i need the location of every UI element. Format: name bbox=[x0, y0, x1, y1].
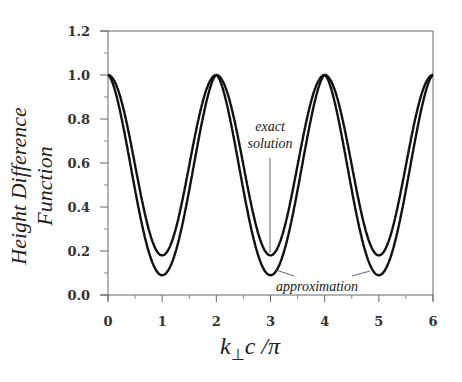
annotation-approx-leader-left bbox=[276, 270, 294, 276]
x-tick-label: 0 bbox=[103, 314, 112, 329]
y-tick-label: 1.2 bbox=[67, 24, 90, 39]
x-label-rest: c /π bbox=[245, 333, 280, 359]
x-label-perp: ⊥ bbox=[231, 346, 245, 363]
y-tick-label: 0.0 bbox=[67, 288, 90, 303]
x-tick-label: 6 bbox=[428, 314, 437, 329]
annotation-approx-leader-right bbox=[352, 271, 370, 276]
y-tick-label: 0.8 bbox=[67, 112, 90, 127]
y-tick-label: 1.0 bbox=[67, 68, 90, 83]
x-tick-label: 3 bbox=[266, 314, 275, 329]
series-approximation-line bbox=[108, 75, 433, 275]
annotation-exact-line2: solution bbox=[240, 135, 300, 152]
x-tick-label: 2 bbox=[212, 314, 221, 329]
x-axis-label: k⊥c /π bbox=[220, 333, 280, 364]
x-tick-label: 1 bbox=[158, 314, 167, 329]
annotation-approximation: approximation bbox=[276, 278, 358, 295]
y-tick-label: 0.4 bbox=[67, 200, 90, 215]
y-axis-label: Height Difference Function bbox=[6, 66, 58, 306]
x-tick-label: 4 bbox=[320, 314, 329, 329]
series-exact-solution-line bbox=[108, 75, 433, 255]
chart-plot: 0.00.20.40.60.81.01.20123456 bbox=[0, 0, 462, 382]
annotation-exact-solution: exactsolution bbox=[240, 118, 300, 152]
annotation-exact-line1: exact bbox=[240, 118, 300, 135]
x-tick-label: 5 bbox=[374, 314, 383, 329]
y-tick-label: 0.6 bbox=[67, 156, 90, 171]
x-label-k: k bbox=[220, 333, 231, 359]
y-tick-label: 0.2 bbox=[67, 244, 90, 259]
